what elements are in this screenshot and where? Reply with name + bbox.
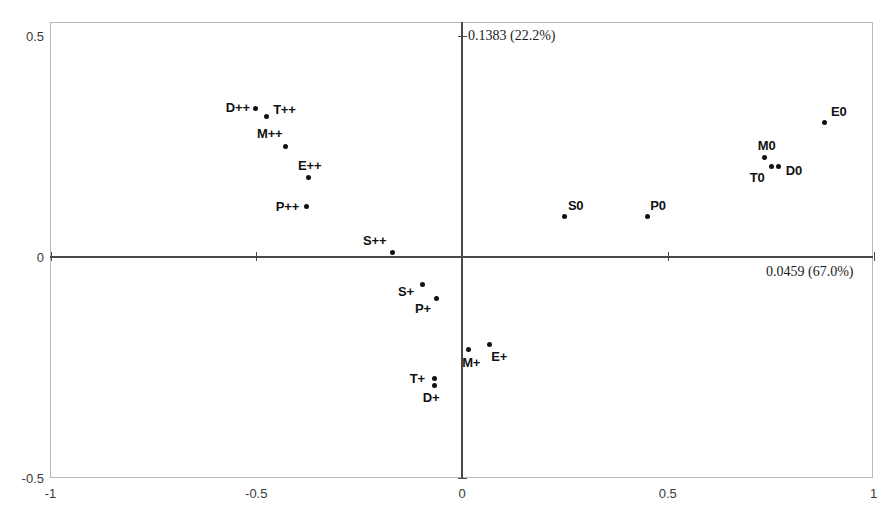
x-axis-tick-label: 0.5 [659,486,677,501]
data-point-label: P+ [415,301,431,316]
data-point-label: E0 [831,104,847,119]
data-point [264,114,269,119]
x-axis-tick [256,252,257,261]
data-point [434,296,439,301]
data-point-label: M++ [257,126,282,141]
data-point-label: S0 [568,198,584,213]
data-point-label: M+ [462,355,480,370]
data-point-label: D+ [423,390,440,405]
data-point-label: S+ [398,284,414,299]
y-axis-tick [458,36,467,37]
horizontal-axis-annotation: 0.0459 (67.0%) [766,264,854,280]
data-point-label: E+ [491,349,507,364]
data-point-label: T0 [750,170,765,185]
x-axis-tick-label: 1 [870,486,877,501]
vertical-axis-annotation: 0.1383 (22.2%) [468,28,556,44]
data-point [283,144,288,149]
y-axis-tick-label: 0.5 [26,29,44,44]
x-axis-tick [51,252,52,261]
x-axis-tick-label: -0.5 [245,486,267,501]
data-point-label: S++ [363,233,386,248]
y-axis-tick-label: -0.5 [22,471,44,486]
data-point-label: T+ [410,371,425,386]
data-point [432,376,437,381]
y-axis-line [461,22,463,478]
data-point-label: M0 [758,138,776,153]
data-point [645,214,650,219]
y-axis-tick [458,478,467,479]
data-point-label: P0 [650,198,666,213]
data-point-label: T++ [273,102,296,117]
x-axis-tick [874,252,875,261]
data-point [420,282,425,287]
data-point-label: P++ [276,199,299,214]
x-axis-tick-label: 0 [458,486,465,501]
data-point-label: D0 [786,163,802,178]
y-axis-tick-label: 0 [37,250,44,265]
x-axis-tick [462,252,463,261]
data-point [390,250,395,255]
data-point-label: D++ [226,100,250,115]
x-axis-tick [668,252,669,261]
data-point-label: E++ [298,158,321,173]
data-point [253,106,258,111]
data-point [487,342,492,347]
x-axis-tick-label: -1 [45,486,57,501]
scatter-plot-figure: -1-0.500.510.50-0.5 0.1383 (22.2%) 0.045… [0,0,890,521]
